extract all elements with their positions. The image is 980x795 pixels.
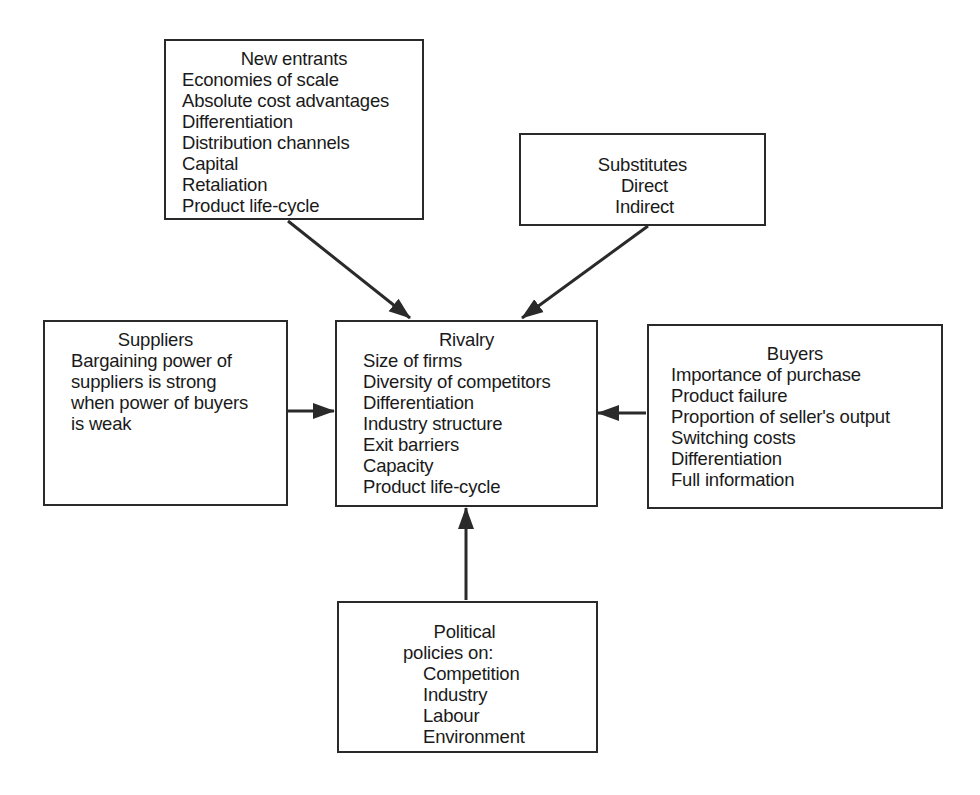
arrow-substitutes-to-rivalry — [522, 226, 648, 318]
political-title: Political — [339, 621, 596, 642]
list-item: suppliers is strong — [71, 371, 286, 392]
rivalry-title: Rivalry — [337, 329, 596, 350]
buyers-list: Importance of purchase Product failure P… — [671, 364, 941, 490]
suppliers-list: Bargaining power of suppliers is strong … — [71, 350, 286, 434]
list-item: Distribution channels — [182, 132, 422, 153]
list-item: Product failure — [671, 385, 941, 406]
list-item: Size of firms — [363, 350, 596, 371]
substitutes-title: Substitutes — [521, 154, 764, 175]
new-entrants-title: New entrants — [166, 48, 422, 69]
list-item: is weak — [71, 413, 286, 434]
political-box: Political policies on: Competition Indus… — [337, 601, 598, 753]
new-entrants-list: Economies of scale Absolute cost advanta… — [182, 69, 422, 216]
arrow-new-entrants-to-rivalry — [288, 221, 410, 318]
list-item: Labour — [423, 705, 596, 726]
list-item: Capacity — [363, 455, 596, 476]
list-item: Switching costs — [671, 427, 941, 448]
list-item: Proportion of seller's output — [671, 406, 941, 427]
forces-diagram: New entrants Economies of scale Absolute… — [0, 0, 980, 795]
list-item: Product life-cycle — [182, 195, 422, 216]
list-item: Diversity of competitors — [363, 371, 596, 392]
substitutes-box: Substitutes Direct Indirect — [519, 133, 766, 226]
buyers-title: Buyers — [649, 343, 941, 364]
list-item: Retaliation — [182, 174, 422, 195]
buyers-box: Buyers Importance of purchase Product fa… — [647, 324, 943, 509]
list-item: Competition — [423, 663, 596, 684]
list-item: Product life-cycle — [363, 476, 596, 497]
substitutes-list: Direct Indirect — [521, 175, 764, 217]
list-item: Absolute cost advantages — [182, 90, 422, 111]
list-item: Differentiation — [182, 111, 422, 132]
new-entrants-box: New entrants Economies of scale Absolute… — [164, 39, 424, 220]
list-item: Capital — [182, 153, 422, 174]
list-item: Full information — [671, 469, 941, 490]
list-item: Bargaining power of — [71, 350, 286, 371]
list-item: Importance of purchase — [671, 364, 941, 385]
list-item: Direct — [521, 175, 764, 196]
political-subtitle: policies on: — [339, 642, 596, 663]
list-item: Environment — [423, 726, 596, 747]
suppliers-box: Suppliers Bargaining power of suppliers … — [43, 320, 288, 506]
list-item: when power of buyers — [71, 392, 286, 413]
rivalry-list: Size of firms Diversity of competitors D… — [363, 350, 596, 497]
list-item: Indirect — [521, 196, 764, 217]
list-item: Industry — [423, 684, 596, 705]
list-item: Industry structure — [363, 413, 596, 434]
rivalry-box: Rivalry Size of firms Diversity of compe… — [335, 320, 598, 507]
list-item: Exit barriers — [363, 434, 596, 455]
suppliers-title: Suppliers — [45, 329, 286, 350]
list-item: Differentiation — [671, 448, 941, 469]
list-item: Economies of scale — [182, 69, 422, 90]
political-list: Competition Industry Labour Environment — [339, 663, 596, 747]
list-item: Differentiation — [363, 392, 596, 413]
